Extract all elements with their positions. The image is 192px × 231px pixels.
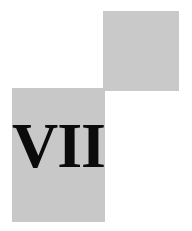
page-canvas: VII (0, 0, 192, 231)
upper-right-gray-square (103, 11, 179, 91)
chapter-numeral: VII (12, 114, 105, 178)
lower-left-gray-panel: VII (12, 88, 105, 222)
